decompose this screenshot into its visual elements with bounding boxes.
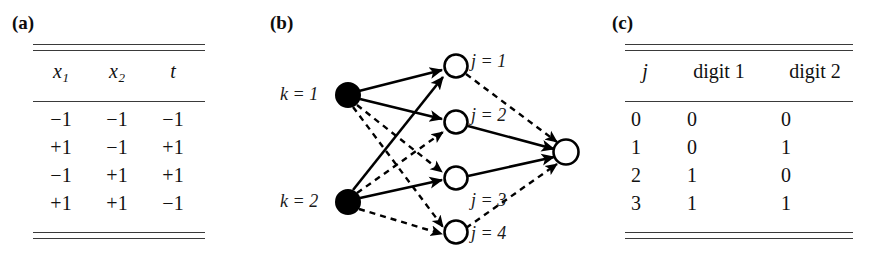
hidden-label-j3: j = 3 (471, 190, 506, 211)
encoding-table-c: j digit 1 digit 2 0 0 0 1 0 1 2 1 0 3 1 … (625, 44, 853, 240)
table-row: 2 1 0 (625, 164, 853, 194)
panel-c-letter: (c) (612, 12, 633, 34)
table-c-r1-c0: 1 (631, 136, 661, 159)
table-a-r3-c1: +1 (91, 192, 143, 215)
output-node[interactable] (554, 140, 579, 165)
table-a-bottom-rule (33, 232, 205, 239)
table-row: 1 0 1 (625, 136, 853, 166)
table-c-r1-c1: 0 (687, 136, 767, 159)
table-row: 3 1 1 (625, 192, 853, 222)
table-row: −1 −1 −1 (33, 108, 205, 138)
table-a-top-rule (33, 44, 205, 51)
table-a-r0-c2: −1 (147, 108, 199, 131)
table-c-header-digit2: digit 2 (767, 60, 863, 83)
edge-k1-j4 (353, 107, 443, 227)
table-c-r0-c0: 0 (631, 108, 661, 131)
table-row: −1 +1 +1 (33, 164, 205, 194)
panel-c: (c) j digit 1 digit 2 0 0 0 1 0 1 2 1 0 … (600, 0, 873, 262)
table-a-header-x1-subscript: 1 (62, 70, 69, 85)
table-c-bottom-rule (625, 232, 853, 239)
table-row: 0 0 0 (625, 108, 853, 138)
edge-k2-j4 (359, 209, 442, 234)
network-diagram (230, 0, 600, 262)
edge-k1-j1 (359, 70, 442, 91)
table-a-r2-c2: +1 (147, 164, 199, 187)
table-a-r0-c0: −1 (35, 108, 87, 131)
hidden-label-j2: j = 2 (471, 105, 506, 126)
truth-table-a: x1 x2 t −1 −1 −1 +1 −1 +1 −1 +1 +1 (33, 44, 205, 240)
table-a-header-t: t (147, 60, 199, 83)
panel-a: (a) x1 x2 t −1 −1 −1 +1 −1 +1 (0, 0, 230, 262)
table-row: +1 +1 −1 (33, 192, 205, 222)
table-c-r3-c2: 1 (781, 192, 861, 215)
table-a-r1-c0: +1 (35, 136, 87, 159)
table-c-top-rule (625, 44, 853, 51)
table-a-header-x2: x2 (91, 60, 143, 86)
edge-k1-j2 (360, 99, 442, 119)
network-edges (353, 70, 557, 234)
table-a-r1-c2: +1 (147, 136, 199, 159)
table-a-header-row: x1 x2 t (33, 60, 205, 94)
table-a-header-x2-symbol: x (109, 60, 118, 82)
edge-k2-j3 (360, 180, 442, 198)
table-a-r0-c1: −1 (91, 108, 143, 131)
table-a-r2-c1: +1 (91, 164, 143, 187)
table-a-header-t-symbol: t (170, 60, 176, 82)
table-c-r2-c2: 0 (781, 164, 861, 187)
hidden-node-j3[interactable] (445, 167, 468, 190)
input-node-k1[interactable] (336, 83, 360, 107)
table-c-r2-c1: 1 (687, 164, 767, 187)
table-a-header-rule (33, 101, 205, 102)
table-c-r2-c0: 2 (631, 164, 661, 187)
hidden-node-j1[interactable] (445, 55, 468, 78)
edge-k2-j1 (353, 77, 443, 190)
table-c-r0-c2: 0 (781, 108, 861, 131)
input-label-k2: k = 2 (280, 191, 318, 212)
table-c-r3-c1: 1 (687, 192, 767, 215)
hidden-label-j1: j = 1 (471, 51, 506, 72)
network-nodes (336, 55, 579, 244)
table-a-r3-c2: −1 (147, 192, 199, 215)
table-a-r2-c0: −1 (35, 164, 87, 187)
table-c-header-digit1: digit 1 (671, 60, 767, 83)
hidden-label-j4: j = 4 (471, 223, 506, 244)
table-c-r1-c2: 1 (781, 136, 861, 159)
input-label-k1: k = 1 (280, 84, 318, 105)
edge-j3-out (468, 157, 554, 176)
table-c-r3-c0: 3 (631, 192, 661, 215)
table-a-r3-c0: +1 (35, 192, 87, 215)
table-c-header-j: j (627, 60, 663, 83)
table-c-header-rule (625, 101, 853, 102)
hidden-node-j2[interactable] (445, 111, 468, 134)
table-c-header-row: j digit 1 digit 2 (625, 60, 853, 94)
table-a-header-x2-subscript: 2 (118, 70, 125, 85)
panel-b: (b) (230, 0, 600, 262)
table-c-r0-c1: 0 (687, 108, 767, 131)
table-a-r1-c1: −1 (91, 136, 143, 159)
table-a-header-x1-symbol: x (53, 60, 62, 82)
hidden-node-j4[interactable] (445, 221, 468, 244)
table-a-header-x1: x1 (35, 60, 87, 86)
panel-a-letter: (a) (12, 12, 34, 34)
input-node-k2[interactable] (336, 190, 360, 214)
table-row: +1 −1 +1 (33, 136, 205, 166)
